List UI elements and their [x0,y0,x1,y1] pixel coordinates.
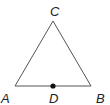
point-d-marker [50,83,55,88]
label-b: B [96,91,105,105]
triangle-abc [15,21,91,86]
label-c: C [50,4,60,19]
label-a: A [0,91,10,105]
triangle-diagram: C A D B [0,0,110,105]
label-d: D [49,91,58,105]
